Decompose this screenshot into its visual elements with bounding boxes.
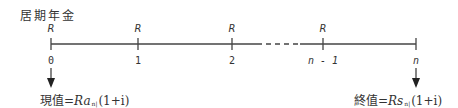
index-label-n-minus-1: n - 1 bbox=[298, 55, 348, 66]
present-value-sub: n| bbox=[92, 101, 98, 107]
future-value-sub: n| bbox=[404, 101, 410, 107]
future-value-label: 終值 bbox=[354, 94, 378, 108]
index-label-1: 1 bbox=[118, 55, 158, 66]
future-value-factor: (1+i) bbox=[411, 94, 442, 108]
present-value-factor: (1+i) bbox=[98, 94, 129, 108]
present-value-fn: a bbox=[83, 94, 90, 108]
future-value-formula: 終值=Rsn|(1+i) bbox=[354, 91, 442, 108]
future-value-equals: = bbox=[378, 94, 388, 108]
present-value-equals: = bbox=[64, 94, 74, 108]
future-value-coef: R bbox=[388, 94, 397, 108]
present-value-coef: R bbox=[74, 94, 83, 108]
arrow-down-icon-left bbox=[47, 78, 55, 88]
payment-label-1: R bbox=[132, 23, 144, 34]
index-label-0: 0 bbox=[31, 55, 71, 66]
arrow-down-icon-right bbox=[412, 78, 420, 88]
payment-label-n-minus-1: R bbox=[317, 23, 329, 34]
index-label-2: 2 bbox=[212, 55, 252, 66]
index-label-n: n bbox=[396, 55, 436, 66]
payment-label-0: R bbox=[45, 23, 57, 34]
payment-label-2: R bbox=[226, 23, 238, 34]
present-value-label: 現值 bbox=[40, 94, 64, 108]
present-value-formula: 現值=Ran|(1+i) bbox=[40, 91, 129, 108]
future-value-fn: s bbox=[397, 94, 403, 108]
